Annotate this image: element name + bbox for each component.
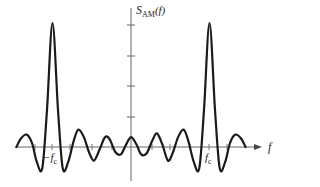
y-label-arg: (f) [155, 4, 165, 16]
y-label-sub: AM [142, 10, 155, 19]
tick-label-sub: c [53, 157, 57, 166]
tick-label-sub: c [208, 157, 212, 166]
x-tick-label-neg-fc: −fc [43, 152, 57, 166]
x-axis-arrow-icon [254, 144, 262, 150]
x-axis-label: f [268, 141, 271, 153]
tick-label-text: −f [43, 151, 53, 163]
x-tick-label-fc: fc [205, 152, 212, 166]
y-axis-label: SAM(f) [136, 4, 165, 19]
